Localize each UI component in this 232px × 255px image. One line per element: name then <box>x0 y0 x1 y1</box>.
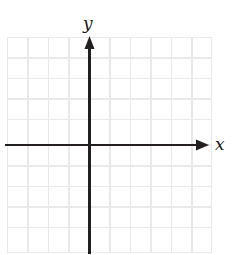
coordinate-plane-figure: y x <box>0 0 232 255</box>
x-axis-label: x <box>215 136 225 153</box>
y-axis-label: y <box>83 15 93 32</box>
x-axis-arrowhead <box>196 140 209 151</box>
x-axis <box>5 140 209 151</box>
coordinate-plane-svg <box>0 0 232 255</box>
